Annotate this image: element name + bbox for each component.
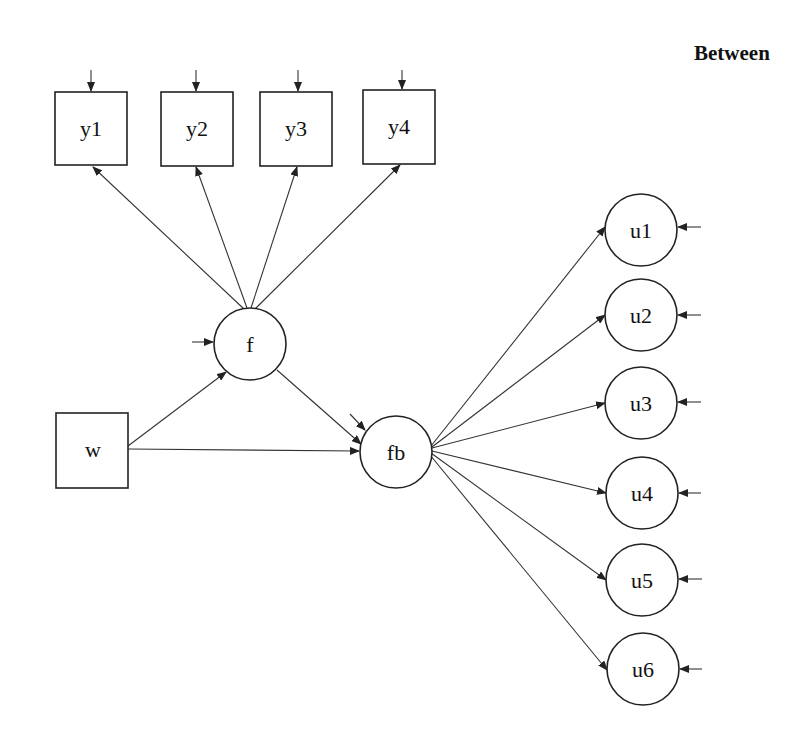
svg-text:y2: y2 — [186, 116, 208, 141]
section-title: Between — [694, 41, 770, 65]
svg-text:u2: u2 — [630, 303, 652, 328]
node-y1: y1 — [55, 92, 127, 165]
node-u3: u3 — [605, 367, 677, 439]
svg-text:y3: y3 — [285, 116, 307, 141]
node-y3: y3 — [260, 92, 332, 166]
svg-text:u3: u3 — [630, 391, 652, 416]
svg-text:u5: u5 — [631, 568, 653, 593]
node-u2: u2 — [605, 279, 677, 351]
node-fb: fb — [360, 416, 432, 488]
svg-text:w: w — [85, 437, 101, 462]
node-w: w — [56, 413, 128, 488]
node-u4: u4 — [606, 457, 678, 529]
node-y4: y4 — [363, 90, 435, 164]
edge-f-fb — [277, 370, 361, 444]
edge-f-y2 — [196, 167, 247, 308]
node-f: f — [214, 308, 286, 380]
edge-f-y4 — [255, 165, 400, 309]
edge-f-y3 — [251, 167, 297, 308]
node-u1: u1 — [605, 194, 677, 266]
path-diagram: Between y1 y2 y3 y4 w — [0, 0, 812, 748]
edge-w-f — [128, 372, 226, 446]
residual-arrow-fb — [350, 414, 365, 430]
node-u6: u6 — [607, 633, 679, 705]
node-u5: u5 — [606, 544, 678, 616]
svg-text:u4: u4 — [631, 481, 653, 506]
node-y2: y2 — [161, 92, 233, 166]
svg-text:y4: y4 — [388, 114, 410, 139]
svg-text:u1: u1 — [630, 218, 652, 243]
svg-text:fb: fb — [387, 440, 405, 465]
edge-fb-u1 — [431, 227, 605, 446]
edge-fb-u2 — [432, 315, 605, 447]
svg-text:f: f — [246, 332, 254, 357]
edge-fb-u3 — [432, 403, 605, 448]
svg-text:u6: u6 — [632, 657, 654, 682]
svg-text:y1: y1 — [80, 116, 102, 141]
edge-w-fb — [128, 449, 359, 451]
